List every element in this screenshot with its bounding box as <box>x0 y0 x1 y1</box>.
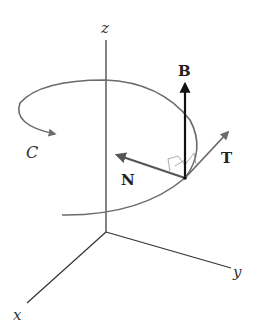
z-axis-label: z <box>100 19 109 37</box>
x-axis <box>27 232 106 303</box>
tangent-label: T <box>221 149 233 167</box>
x-axis-label: x <box>13 306 22 324</box>
frame-vectors <box>117 84 228 180</box>
point-on-curve <box>183 176 187 180</box>
y-axis-label: y <box>232 263 242 281</box>
curve-label: C <box>26 143 38 162</box>
curve-c <box>19 80 197 215</box>
binormal-label: B <box>178 62 191 80</box>
normal-label: N <box>121 171 135 189</box>
curve-path <box>19 80 197 215</box>
frenet-frame-diagram: z x y C B N T <box>0 0 256 336</box>
y-axis <box>106 232 231 268</box>
